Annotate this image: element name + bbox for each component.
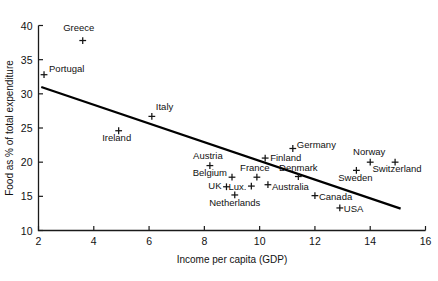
point-label-uk: UK	[208, 180, 222, 191]
data-point: USA	[336, 203, 364, 214]
data-point: Greece	[63, 22, 94, 44]
y-tick-label: 10	[21, 225, 33, 237]
point-label-greece: Greece	[63, 22, 94, 33]
data-point: Canada	[312, 191, 353, 202]
x-axis-title: Income per capita (GDP)	[177, 254, 288, 265]
x-tick-label: 14	[364, 235, 376, 247]
data-point: Sweden	[338, 167, 372, 183]
data-point: Italy	[148, 101, 173, 119]
point-label-france: France	[240, 162, 270, 173]
y-axis-title: Food as % of total expenditure	[4, 60, 15, 196]
y-tick-label: 20	[21, 156, 33, 168]
point-label-denmark: Denmark	[279, 162, 318, 173]
data-points-group: GreecePortugalItalyIrelandGermanyFinland…	[41, 22, 422, 214]
y-tick-label: 25	[21, 122, 33, 134]
point-label-netherlands: Netherlands	[209, 197, 260, 208]
data-point: UK	[208, 180, 230, 191]
point-label-italy: Italy	[156, 101, 174, 112]
data-point: Australia	[265, 181, 310, 192]
x-tick-label: 8	[201, 235, 207, 247]
x-tick-label: 12	[309, 235, 321, 247]
data-point: Netherlands	[209, 192, 260, 208]
axes: 24681012141610152025303540	[21, 20, 432, 247]
point-label-belgium: Belgium	[193, 167, 227, 178]
y-tick-label: 40	[21, 20, 33, 32]
x-tick-label: 2	[36, 235, 42, 247]
point-label-ireland: Ireland	[102, 132, 131, 143]
data-point: Switzerland	[373, 159, 422, 174]
data-point: France	[240, 162, 270, 180]
data-point: Germany	[289, 139, 336, 152]
point-label-canada: Canada	[319, 191, 353, 202]
x-tick-label: 4	[91, 235, 97, 247]
data-point: Denmark	[279, 162, 318, 180]
point-label-austria: Austria	[193, 150, 223, 161]
point-label-germany: Germany	[297, 139, 336, 150]
data-point: Austria	[193, 150, 223, 169]
plot-area: 24681012141610152025303540 GreecePortuga…	[0, 0, 438, 281]
data-point: Portugal	[41, 63, 85, 78]
x-tick-label: 6	[146, 235, 152, 247]
y-tick-label: 15	[21, 190, 33, 202]
data-point: Lux.	[228, 181, 254, 192]
x-tick-label: 10	[254, 235, 266, 247]
y-tick-label: 35	[21, 54, 33, 66]
scatter-chart-figure: 24681012141610152025303540 GreecePortuga…	[0, 0, 438, 281]
point-label-portugal: Portugal	[49, 63, 84, 74]
point-label-lux: Lux.	[228, 181, 246, 192]
data-point: Ireland	[102, 127, 131, 142]
point-label-switzerland: Switzerland	[373, 163, 422, 174]
point-label-usa: USA	[344, 203, 364, 214]
point-label-norway: Norway	[353, 146, 385, 157]
data-point: Belgium	[193, 167, 236, 180]
point-label-sweden: Sweden	[338, 172, 372, 183]
point-label-australia: Australia	[272, 181, 310, 192]
y-tick-label: 30	[21, 88, 33, 100]
x-tick-label: 16	[420, 235, 432, 247]
